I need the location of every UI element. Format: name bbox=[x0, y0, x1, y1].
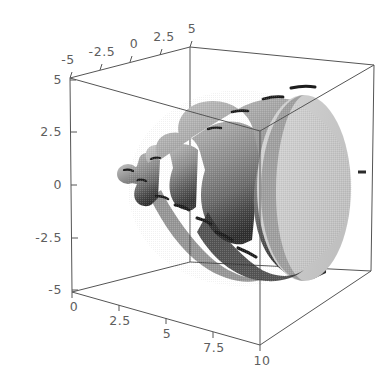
x-tick-label-0: 0 bbox=[70, 299, 79, 314]
y-tick-label-1: -2.5 bbox=[89, 44, 116, 59]
x-tick-label-1: 2.5 bbox=[109, 313, 131, 328]
plot-figure: 5 2.5 0 -2.5 -5 -5 -2.5 0 2.5 5 0 2.5 5 … bbox=[0, 0, 386, 375]
x-axis-tick-labels: 0 2.5 5 7.5 10 bbox=[70, 299, 271, 368]
plot-canvas: 5 2.5 0 -2.5 -5 -5 -2.5 0 2.5 5 0 2.5 5 … bbox=[0, 0, 386, 375]
surface-of-revolution bbox=[117, 86, 352, 286]
z-axis-tick-labels: 5 2.5 0 -2.5 -5 bbox=[35, 72, 62, 297]
y-tick-label-4: 5 bbox=[188, 21, 197, 36]
z-tick-label-4: -5 bbox=[48, 282, 62, 297]
y-tick-label-2: 0 bbox=[130, 36, 139, 51]
z-tick-label-2: 0 bbox=[53, 177, 62, 192]
x-axis-ticks bbox=[72, 292, 260, 351]
x-tick-label-2: 5 bbox=[163, 326, 172, 341]
z-tick-label-1: 2.5 bbox=[40, 124, 62, 139]
x-tick-label-3: 7.5 bbox=[203, 340, 225, 355]
z-tick-label-3: -2.5 bbox=[35, 230, 62, 245]
surface-dither-overlay bbox=[128, 90, 352, 286]
y-axis-tick-labels: -5 -2.5 0 2.5 5 bbox=[61, 21, 196, 67]
x-tick-label-4: 10 bbox=[253, 353, 270, 368]
y-tick-label-3: 2.5 bbox=[153, 29, 175, 44]
z-tick-label-0: 5 bbox=[53, 72, 62, 87]
y-tick-label-0: -5 bbox=[61, 52, 75, 67]
